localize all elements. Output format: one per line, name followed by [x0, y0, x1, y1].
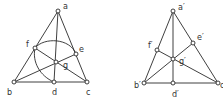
label-a-prime: a′ — [178, 3, 185, 12]
point-e-prime — [191, 41, 195, 45]
label-e: e — [79, 45, 84, 54]
label-g-prime: g′ — [179, 57, 186, 66]
label-f: f — [26, 40, 29, 49]
label-b-prime: b′ — [134, 81, 141, 90]
point-f-prime — [155, 48, 159, 52]
right-triangle: a′ b′ c′ d′ e′ f′ g′ — [134, 3, 223, 99]
point-b — [12, 80, 16, 84]
label-c: c — [86, 88, 90, 97]
point-d-prime — [171, 81, 175, 85]
point-d — [52, 80, 56, 84]
label-f-prime: f′ — [148, 41, 153, 50]
label-c-prime: c′ — [220, 81, 223, 90]
point-f — [33, 46, 37, 50]
label-b: b — [7, 88, 12, 97]
label-d: d — [52, 88, 57, 97]
triangle-abc-prime — [144, 11, 218, 83]
point-e — [74, 52, 78, 56]
point-a — [56, 9, 60, 13]
triangle-abc — [14, 11, 87, 82]
label-d-prime: d′ — [172, 90, 179, 99]
point-c — [85, 80, 89, 84]
label-e-prime: e′ — [197, 33, 204, 42]
cevian-ad — [54, 11, 58, 82]
cevians-diagram: a b c d e f g a′ b′ c′ d′ e′ f′ g′ — [0, 0, 223, 102]
point-a-prime — [171, 9, 175, 13]
point-g — [54, 60, 58, 64]
point-g-prime — [171, 57, 175, 61]
cevian-cf-prime — [157, 50, 218, 83]
left-triangle: a b c d e f g — [7, 2, 90, 97]
label-g: g — [63, 61, 68, 70]
point-b-prime — [142, 81, 146, 85]
label-a: a — [63, 2, 68, 11]
